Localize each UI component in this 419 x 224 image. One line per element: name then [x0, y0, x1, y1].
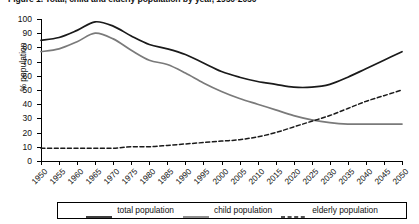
- legend-label: total population: [117, 206, 174, 214]
- series-line-child-population: [41, 33, 402, 124]
- x-tick: [402, 161, 403, 165]
- y-tick-label: 0: [2, 157, 32, 166]
- legend-label: elderly population: [312, 206, 378, 214]
- y-tick-label: 60: [2, 72, 32, 81]
- legend-swatch-icon: [281, 207, 307, 215]
- series-container: [41, 19, 402, 162]
- legend-item-elderly-population[interactable]: elderly population: [281, 206, 378, 214]
- y-tick-label: 70: [2, 58, 32, 67]
- y-axis-label: % population: [18, 27, 28, 107]
- legend-swatch-icon: [86, 207, 112, 215]
- y-tick-label: 20: [2, 129, 32, 138]
- legend-item-child-population[interactable]: child population: [183, 206, 272, 214]
- legend-item-total-population[interactable]: total population: [86, 206, 174, 214]
- y-tick-label: 100: [2, 15, 32, 24]
- chart-title: Figure 1. Total, child and elderly popul…: [8, 0, 418, 5]
- y-tick-label: 50: [2, 86, 32, 95]
- y-tick-label: 90: [2, 29, 32, 38]
- y-tick-label: 30: [2, 114, 32, 123]
- series-line-elderly-population: [41, 90, 402, 148]
- chart-legend: total populationchild populationelderly …: [57, 202, 407, 219]
- legend-swatch-icon: [183, 207, 209, 215]
- legend-label: child population: [214, 206, 272, 214]
- series-line-total-population: [41, 22, 402, 88]
- y-tick-label: 40: [2, 100, 32, 109]
- population-chart: Figure 1. Total, child and elderly popul…: [0, 0, 419, 224]
- y-tick-label: 10: [2, 143, 32, 152]
- y-tick-label: 80: [2, 43, 32, 52]
